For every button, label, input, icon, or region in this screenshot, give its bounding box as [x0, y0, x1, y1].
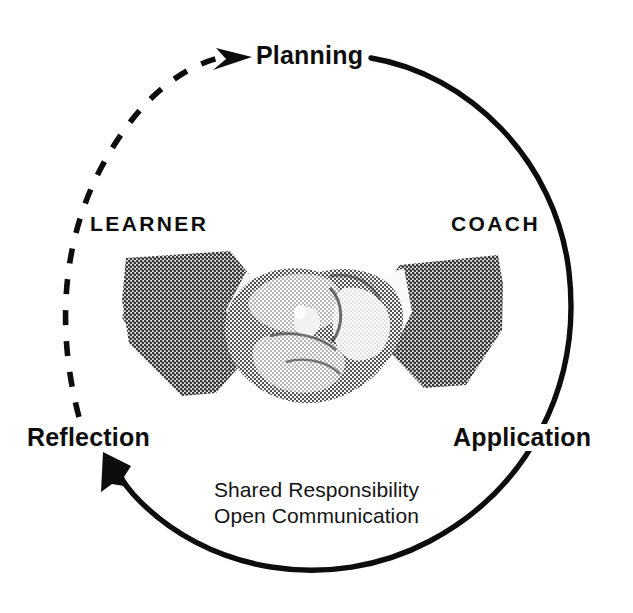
role-label-learner: LEARNER: [88, 212, 210, 235]
value-line-shared-responsibility: Shared Responsibility: [0, 477, 633, 503]
phase-label-planning: Planning: [253, 42, 366, 69]
phase-label-reflection: Reflection: [24, 424, 153, 451]
role-label-coach: COACH: [449, 212, 542, 235]
shared-values-text: Shared Responsibility Open Communication: [0, 477, 633, 528]
coaching-cycle-diagram: Planning Reflection Application LEARNER …: [0, 0, 633, 613]
value-line-open-communication: Open Communication: [0, 503, 633, 529]
diagram-labels: Planning Reflection Application LEARNER …: [0, 0, 633, 613]
phase-label-application: Application: [450, 424, 594, 451]
